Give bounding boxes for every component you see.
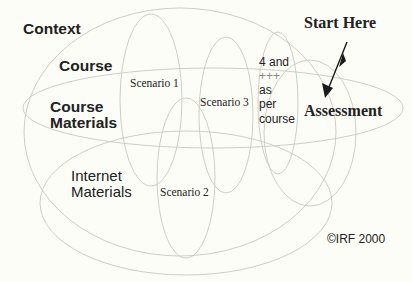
scenario2-ellipse [157, 98, 215, 258]
copyright-label: ©IRF 2000 [327, 233, 385, 246]
scenario3-label: Scenario 3 [200, 96, 249, 108]
scenario4-line2: +++ [259, 69, 295, 83]
diagram-canvas: Context Course Course Materials Internet… [0, 0, 412, 282]
scenario1-ellipse [120, 14, 182, 186]
course-label: Course [59, 58, 112, 74]
scenario3-ellipse [199, 37, 253, 193]
start-arrow-icon [322, 42, 347, 98]
scenario4-line3: as [259, 83, 295, 97]
scenario4-label: 4 and +++ as per course [259, 55, 295, 126]
scenario2-label: Scenario 2 [160, 186, 209, 198]
internet-materials-line2: Materials [71, 184, 132, 200]
scenario1-label: Scenario 1 [130, 77, 179, 89]
course-materials-line1: Course [50, 99, 117, 115]
scenario4-line1: 4 and [259, 55, 295, 69]
internet-materials-line1: Internet [71, 168, 132, 184]
scenario4-line5: course [259, 112, 295, 126]
start-here-label: Start Here [304, 15, 376, 32]
materials-ellipse [40, 131, 332, 275]
scenario4-line4: per [259, 97, 295, 111]
assessment-label: Assessment [304, 103, 382, 120]
internet-materials-label: Internet Materials [71, 168, 132, 200]
context-label: Context [23, 21, 81, 37]
course-materials-label: Course Materials [50, 99, 117, 132]
course-materials-line2: Materials [50, 115, 117, 131]
